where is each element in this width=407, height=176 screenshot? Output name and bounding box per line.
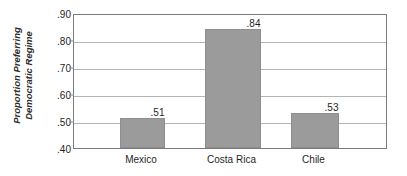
y-axis-tick-mark — [69, 41, 74, 42]
bar-value-label: .53 — [317, 102, 339, 113]
y-axis-tick-mark — [69, 68, 74, 69]
y-axis-tick-label: .50 — [45, 117, 71, 128]
bar — [120, 118, 165, 148]
x-axis-category-label: Mexico — [125, 154, 157, 165]
y-axis-tick-label: .90 — [45, 9, 71, 20]
y-axis-title: Proportion Preferring Democratic Regime — [0, 0, 44, 150]
x-axis-category-label: Costa Rica — [207, 154, 256, 165]
bar — [291, 113, 339, 148]
y-axis-tick-label: .80 — [45, 36, 71, 47]
y-axis-tick-label: .60 — [45, 90, 71, 101]
y-axis-tick-mark — [69, 122, 74, 123]
y-axis-title-line-2: Democratic Regime — [22, 27, 34, 124]
bar-value-label: .84 — [239, 18, 261, 29]
plot-area: .51.84.53 — [73, 14, 387, 149]
y-axis-tick-label: .40 — [45, 144, 71, 155]
bar — [205, 29, 261, 148]
y-axis-title-line-1: Proportion Preferring — [11, 27, 23, 124]
y-axis-tick-label: .70 — [45, 63, 71, 74]
bar-value-label: .51 — [143, 107, 165, 118]
y-axis-tick-labels: .90.80.70.60.50.40 — [42, 0, 71, 176]
x-axis-category-label: Chile — [302, 154, 325, 165]
bar-chart-figure: Proportion Preferring Democratic Regime … — [0, 0, 407, 176]
y-axis-tick-mark — [69, 95, 74, 96]
